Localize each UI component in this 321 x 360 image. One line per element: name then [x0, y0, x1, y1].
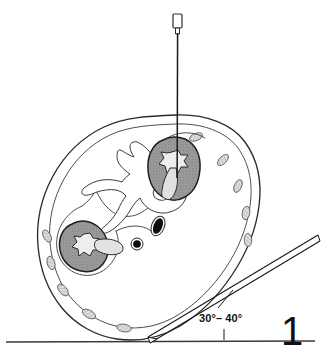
angle-leader-line [218, 290, 233, 308]
angle-label: 30°– 40° [199, 312, 242, 324]
figure-number: 1 [281, 309, 303, 353]
right-kidney-target [148, 137, 200, 200]
rib-marker [244, 233, 252, 246]
inferior-vena-cava-vessel [131, 238, 143, 250]
figure-canvas: 30°– 40° 1 [0, 0, 321, 360]
table-baseline [6, 341, 315, 342]
anatomical-cross-section-illustration: 30°– 40° 1 [0, 0, 321, 360]
needle-hub [173, 14, 182, 28]
